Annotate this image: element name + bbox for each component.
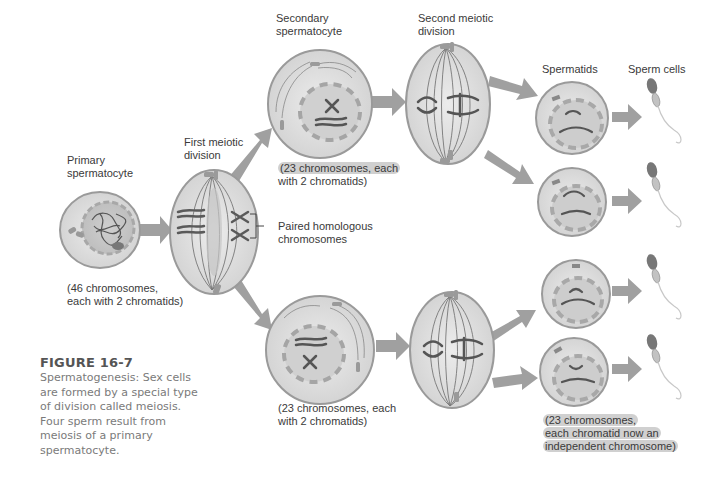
sperm-icon [645,333,681,399]
arrow-icon [488,310,536,342]
second-meiotic-division-label: Second meiotic division [418,12,493,38]
primary-chromosome-note: (46 chromosomes, each with 2 chromatids) [67,282,183,308]
arrow-icon [612,104,642,130]
secondary-bottom-chromosome-note: (23 chromosomes, each with 2 chromatids) [278,402,396,428]
figure-caption: Spermatogenesis: Sex cells are formed by… [40,371,200,458]
arrow-icon [140,216,172,244]
spermatid-4 [540,338,608,406]
arrow-icon [492,366,538,390]
arrow-icon [612,278,642,304]
secondary-spermatocyte-label: Secondary spermatocyte [276,12,342,38]
spermatids-chromosome-note: (23 chromosomes, each chromatid now an i… [543,414,678,453]
secondary-top-chromosome-note: (23 chromosomes, each with 2 chromatids) [278,162,400,188]
primary-spermatocyte-label: Primary spermatocyte [67,154,133,180]
arrow-icon [612,188,642,214]
spermatid-cells [536,82,610,406]
first-meiotic-division-cell [170,170,264,295]
paired-homologous-callout: Paired homologous chromosomes [278,220,373,246]
spermatogenesis-figure: Primary spermatocyte (46 chromosomes, ea… [0,0,719,480]
spermatid-2 [538,168,606,236]
second-meiotic-division-top-cell [406,42,490,164]
sperm-icon [645,161,681,227]
spermatids-label: Spermatids [542,63,598,76]
secondary-spermatocyte-bottom-cell [266,296,374,404]
figure-title: FIGURE 16-7 [40,355,133,370]
arrow-icon [488,76,538,100]
arrow-icon [376,332,410,360]
sperm-cells-label: Sperm cells [628,63,685,76]
sperm-cells [645,77,681,399]
primary-spermatocyte-cell [60,192,140,268]
secondary-spermatocyte-top-cell [268,50,372,158]
arrow-icon [612,356,642,382]
sperm-icon [645,253,681,319]
second-meiotic-division-bottom-cell [410,290,494,408]
arrow-icon [484,150,534,184]
first-meiotic-division-label: First meiotic division [184,136,243,162]
sperm-icon [645,77,681,143]
spermatid-1 [536,82,608,154]
arrow-icon [372,88,406,116]
spermatid-3 [542,260,610,328]
